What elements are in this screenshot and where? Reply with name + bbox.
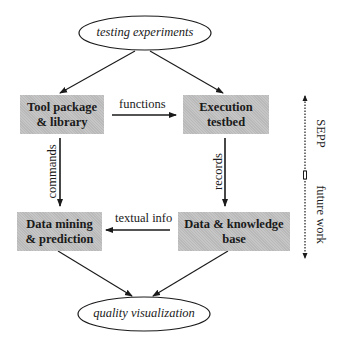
data-knowledge-line2: base: [222, 232, 246, 246]
data-knowledge-box: Data & knowledgebase: [178, 212, 290, 251]
future-work-label: future work: [313, 180, 328, 250]
arrow-testing-to-execution: [150, 51, 223, 93]
execution-line1: Execution: [199, 100, 252, 114]
data-mining-line2: & prediction: [25, 232, 93, 246]
arrow-knowledge-to-visualization: [153, 251, 228, 296]
tool-package-box: Tool package& library: [20, 95, 104, 134]
commands-label: commands: [45, 142, 60, 202]
execution-testbed-box: Executiontestbed: [183, 95, 269, 134]
data-mining-line1: Data mining: [26, 217, 92, 231]
functions-label: functions: [119, 97, 166, 112]
indicator-divider: [304, 171, 307, 179]
data-mining-box: Data mining& prediction: [17, 212, 102, 251]
tool-package-line2: & library: [36, 115, 87, 129]
sepp-label: SEPP: [313, 109, 328, 159]
textual-info-label: textual info: [115, 211, 172, 226]
tool-package-line1: Tool package: [27, 100, 97, 114]
arrow-testing-to-tool: [60, 51, 135, 93]
records-label: records: [211, 142, 226, 202]
data-knowledge-line1: Data & knowledge: [184, 217, 283, 231]
testing-experiments-label: testing experiments: [79, 25, 211, 40]
quality-visualization-label: quality visualization: [78, 306, 210, 321]
arrow-mining-to-visualization: [58, 251, 132, 296]
execution-line2: testbed: [207, 115, 245, 129]
